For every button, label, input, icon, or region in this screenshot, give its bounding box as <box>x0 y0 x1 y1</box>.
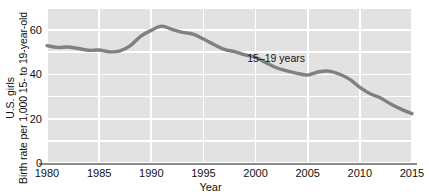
plot-area <box>47 8 412 163</box>
x-tick-label-1985: 1985 <box>69 167 129 179</box>
x-tick-label-2010: 2010 <box>330 167 390 179</box>
series-annotation-15-19-years: 15–19 years <box>247 52 305 64</box>
x-axis-label: Year <box>0 181 421 193</box>
data-line-15-19-years <box>47 26 412 113</box>
x-axis-line <box>39 163 417 165</box>
x-tick-label-1980: 1980 <box>17 167 77 179</box>
y-tick-label-60: 60 <box>8 24 42 36</box>
x-tick-label-2005: 2005 <box>278 167 338 179</box>
x-tick-label-2015: 2015 <box>382 167 429 179</box>
x-tick-label-1995: 1995 <box>173 167 233 179</box>
x-tick-label-2000: 2000 <box>226 167 286 179</box>
y-tick-label-20: 20 <box>8 113 42 125</box>
y-tick-label-40: 40 <box>8 68 42 80</box>
x-tick-label-1990: 1990 <box>121 167 181 179</box>
data-line-layer <box>47 8 412 163</box>
